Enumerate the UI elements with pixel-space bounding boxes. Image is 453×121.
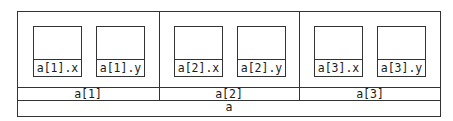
element-label-a3: a[3]: [299, 88, 441, 100]
element-label-a2: a[2]: [159, 88, 299, 100]
field-box-a1-x: a[1].x: [33, 26, 82, 77]
field-box-a1-y: a[1].y: [96, 26, 145, 77]
field-label: a[2].x: [175, 60, 222, 76]
field-box-a2-y: a[2].y: [237, 26, 286, 77]
field-label: a[2].y: [238, 60, 285, 76]
field-label: a[1].y: [97, 60, 144, 76]
field-label: a[3].x: [315, 60, 362, 76]
field-box-a3-x: a[3].x: [314, 26, 363, 77]
field-box-a3-y: a[3].y: [377, 26, 426, 77]
field-label: a[3].y: [378, 60, 425, 76]
element-label-a1: a[1]: [17, 88, 159, 100]
root-label-a: a: [17, 101, 441, 116]
field-box-a2-x: a[2].x: [174, 26, 223, 77]
field-label: a[1].x: [34, 60, 81, 76]
